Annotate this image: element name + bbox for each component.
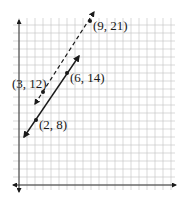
label-6-14: (6, 14) — [70, 70, 105, 85]
coordinate-plane: (9, 21) (3, 12) (6, 14) (2, 8) — [0, 0, 185, 199]
label-2-8: (2, 8) — [39, 117, 67, 132]
label-9-21: (9, 21) — [93, 18, 128, 33]
label-3-12: (3, 12) — [12, 76, 47, 91]
point-6-14 — [65, 71, 69, 75]
point-9-21 — [88, 19, 92, 23]
point-2-8 — [34, 118, 38, 122]
grid — [13, 18, 175, 190]
